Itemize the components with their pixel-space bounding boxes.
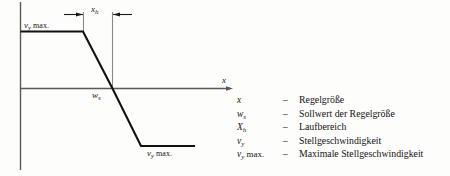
- x-axis-label-text: x: [222, 75, 226, 85]
- legend-symbol-sub: y: [241, 139, 244, 147]
- legend-separator: –: [283, 149, 299, 159]
- legend-symbol-sub: h: [243, 126, 247, 134]
- setpoint-label-sub: s: [98, 94, 101, 102]
- figure-page: vy max. vy max. xh ws x x – Regelgröße w…: [0, 0, 450, 176]
- control-characteristic-figure: vy max. vy max. xh ws x: [0, 0, 240, 176]
- legend-symbol-main: x: [237, 95, 241, 105]
- upper-saturation-label: vy max.: [24, 21, 49, 32]
- lower-saturation-label: vy max.: [147, 149, 172, 160]
- dimension-arrow-right: [113, 12, 120, 16]
- legend-symbol-suffix: max.: [247, 149, 265, 159]
- legend-symbol: x: [237, 95, 283, 107]
- legend-symbol-sub: s: [243, 112, 246, 120]
- legend-description: Maximale Stellgeschwindigkeit: [299, 148, 423, 159]
- range-label-sub: h: [95, 8, 99, 16]
- legend-symbol: ws: [237, 109, 283, 121]
- legend-row: vy max. – Maximale Stellgeschwindigkeit: [237, 148, 449, 162]
- lower-saturation-suffix: max.: [156, 149, 172, 158]
- legend-row: ws – Sollwert der Regelgröße: [237, 108, 449, 122]
- range-dimension-label: xh: [91, 5, 99, 16]
- legend-symbol: Xh: [237, 122, 283, 134]
- x-axis-arrowhead: [226, 86, 233, 91]
- legend-row: x – Regelgröße: [237, 94, 449, 108]
- dimension-arrow-left: [76, 12, 83, 16]
- legend-symbol: vy max.: [237, 149, 283, 161]
- legend-description: Regelgröße: [299, 94, 344, 105]
- legend-separator: –: [283, 136, 299, 146]
- legend-description: Laufbereich: [299, 121, 346, 132]
- upper-saturation-suffix: max.: [33, 21, 49, 30]
- x-axis-label: x: [222, 76, 226, 85]
- legend-row: Xh – Laufbereich: [237, 121, 449, 135]
- setpoint-label: ws: [92, 91, 101, 102]
- legend-symbol: vy: [237, 136, 283, 148]
- symbol-legend: x – Regelgröße ws – Sollwert der Regelgr…: [237, 94, 449, 162]
- legend-row: vy – Stellgeschwindigkeit: [237, 135, 449, 149]
- legend-separator: –: [283, 109, 299, 119]
- legend-description: Stellgeschwindigkeit: [299, 135, 381, 146]
- legend-separator: –: [283, 122, 299, 132]
- legend-description: Sollwert der Regelgröße: [299, 108, 395, 119]
- legend-separator: –: [283, 95, 299, 105]
